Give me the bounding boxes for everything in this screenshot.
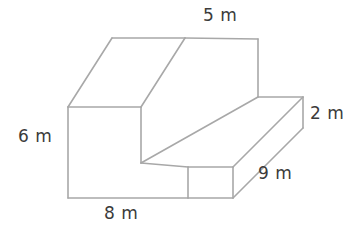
dimension-label-right-height: 2 m [310, 104, 344, 123]
geometry-figure: 5 m 6 m 2 m 9 m 8 m [0, 0, 362, 227]
dimension-label-top: 5 m [203, 6, 237, 25]
edge-back-ridge [185, 38, 258, 39]
dimension-label-bottom-width: 8 m [104, 204, 138, 223]
dimension-label-depth: 9 m [258, 164, 292, 183]
dimension-label-left-height: 6 m [18, 127, 52, 146]
l-prism-drawing [0, 0, 362, 227]
face-front-lower-right [188, 167, 233, 198]
